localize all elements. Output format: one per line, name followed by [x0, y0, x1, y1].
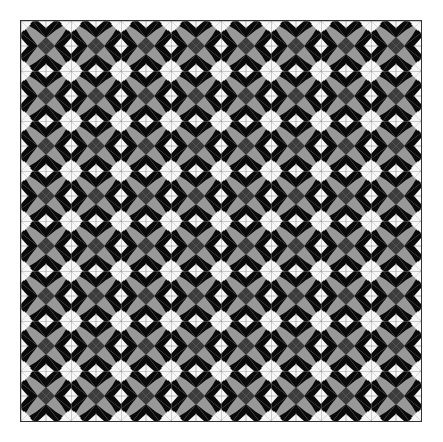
image-title: Geometric quilt pattern	[0, 0, 1, 1]
quilt-pattern	[21, 21, 421, 421]
tiled-surface	[21, 21, 421, 421]
